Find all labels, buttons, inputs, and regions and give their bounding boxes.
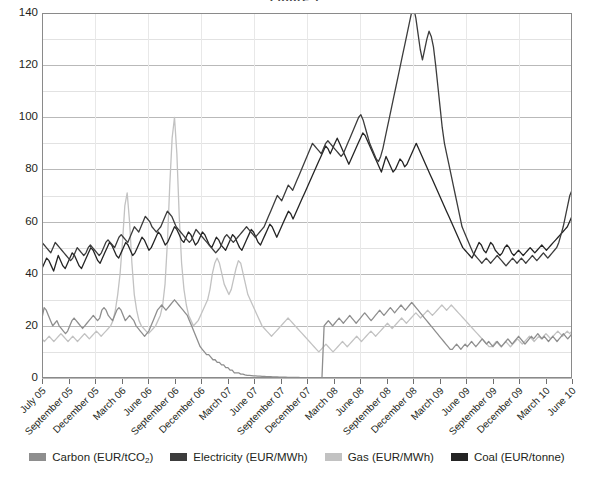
x-tick — [175, 379, 176, 384]
x-tick — [493, 379, 494, 384]
x-tick — [42, 379, 43, 384]
y-tick-label: 60 — [2, 216, 38, 227]
chart-title: Figure 1. — [0, 0, 594, 1]
y-tick-label: 20 — [2, 320, 38, 331]
x-tick — [360, 379, 361, 384]
legend-label-electricity: Electricity (EUR/MWh) — [193, 451, 307, 463]
legend-label-gas: Gas (EUR/MWh) — [348, 451, 434, 463]
chart-page: Figure 1. 020406080100120140 July 05Sept… — [0, 0, 594, 478]
legend-item-coal[interactable]: Coal (EUR/tonne) — [451, 451, 565, 463]
y-tick-label: 120 — [2, 59, 38, 70]
legend-item-electricity[interactable]: Electricity (EUR/MWh) — [170, 451, 307, 463]
x-tick — [122, 379, 123, 384]
x-tick — [95, 379, 96, 384]
x-tick — [413, 379, 414, 384]
y-tick-label: 0 — [2, 372, 38, 383]
x-axis-labels: July 05September 05December 05March 06Ju… — [0, 385, 594, 440]
legend-swatch-carbon — [29, 453, 46, 461]
x-tick — [519, 379, 520, 384]
x-tick — [281, 379, 282, 384]
legend-swatch-gas — [325, 453, 342, 461]
y-tick-label: 140 — [2, 7, 38, 18]
legend-label-carbon: Carbon (EUR/tCO2) — [52, 451, 153, 463]
x-tick — [228, 379, 229, 384]
x-tick — [334, 379, 335, 384]
legend-item-gas[interactable]: Gas (EUR/MWh) — [325, 451, 434, 463]
x-tick — [307, 379, 308, 384]
plot-frame — [42, 13, 572, 378]
x-tick — [440, 379, 441, 384]
legend-item-carbon[interactable]: Carbon (EUR/tCO2) — [29, 451, 153, 463]
x-tick — [148, 379, 149, 384]
y-tick-label: 100 — [2, 111, 38, 122]
x-tick — [201, 379, 202, 384]
y-tick-label: 40 — [2, 268, 38, 279]
legend-label-coal: Coal (EUR/tonne) — [474, 451, 565, 463]
legend-swatch-electricity — [170, 453, 187, 461]
x-tick — [387, 379, 388, 384]
x-tick — [69, 379, 70, 384]
y-tick-label: 80 — [2, 163, 38, 174]
x-tick — [466, 379, 467, 384]
legend-swatch-coal — [451, 453, 468, 461]
chart-legend: Carbon (EUR/tCO2)Electricity (EUR/MWh)Ga… — [0, 446, 594, 468]
x-tick — [546, 379, 547, 384]
x-tick — [254, 379, 255, 384]
x-tick — [572, 379, 573, 384]
y-axis: 020406080100120140 — [0, 13, 38, 378]
plot-area — [42, 13, 572, 378]
